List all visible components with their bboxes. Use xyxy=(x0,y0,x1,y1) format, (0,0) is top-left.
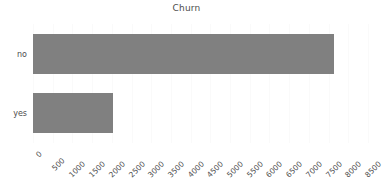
x-tick-label-500: 500 xyxy=(60,146,76,162)
gridline xyxy=(368,24,369,143)
x-tick-label-8500: 8500 xyxy=(377,146,386,166)
x-tick-label-0: 0 xyxy=(37,146,47,156)
y-tick-label-yes: yes xyxy=(13,109,27,118)
y-axis-tick-labels: noyes xyxy=(0,24,31,143)
plot-area xyxy=(33,24,368,143)
bar-series xyxy=(33,24,368,143)
x-axis-tick-labels: 0500100015002000250030003500400045005000… xyxy=(0,143,373,183)
bar-yes xyxy=(33,93,113,133)
chart-title: Churn xyxy=(0,3,373,13)
y-tick-label-no: no xyxy=(17,49,27,58)
bar-no xyxy=(33,34,334,74)
